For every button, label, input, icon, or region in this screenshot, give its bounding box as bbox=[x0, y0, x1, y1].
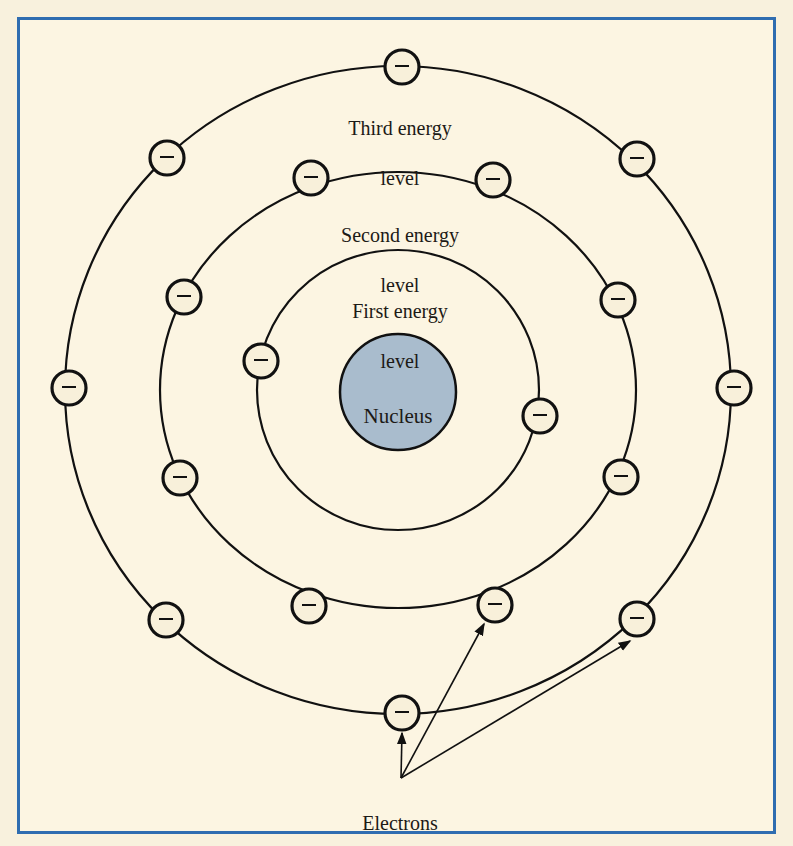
electron-icon bbox=[620, 602, 654, 636]
nucleus-label-text: Nucleus bbox=[364, 404, 433, 428]
first-level-label-line1: First energy bbox=[310, 299, 490, 324]
electron-icon bbox=[385, 696, 419, 730]
third-level-label-line1: Third energy bbox=[310, 116, 490, 141]
diagram-canvas: Nucleus Third energy level Second energy… bbox=[0, 0, 793, 846]
electron-callout-arrows bbox=[401, 624, 630, 778]
electron-icon bbox=[523, 399, 557, 433]
electron-icon bbox=[52, 371, 86, 405]
arrow-icon bbox=[401, 733, 402, 778]
third-level-label-line2: level bbox=[310, 166, 490, 191]
electrons-label: Electrons bbox=[330, 786, 470, 836]
first-energy-level-label: First energy level bbox=[310, 274, 490, 399]
electron-icon bbox=[163, 461, 197, 495]
electron-icon bbox=[601, 283, 635, 317]
second-level-label-line1: Second energy bbox=[305, 223, 495, 248]
electron-icon bbox=[478, 588, 512, 622]
electron-icon bbox=[620, 142, 654, 176]
arrow-icon bbox=[401, 641, 630, 778]
electrons-label-text: Electrons bbox=[362, 812, 438, 834]
electron-icon bbox=[717, 371, 751, 405]
first-level-label-line2: level bbox=[310, 349, 490, 374]
electron-icon bbox=[150, 141, 184, 175]
electron-icon bbox=[149, 603, 183, 637]
electron-icon bbox=[167, 280, 201, 314]
electron-icon bbox=[244, 344, 278, 378]
electron-icon bbox=[604, 460, 638, 494]
electron-icon bbox=[385, 50, 419, 84]
electron-icon bbox=[292, 589, 326, 623]
